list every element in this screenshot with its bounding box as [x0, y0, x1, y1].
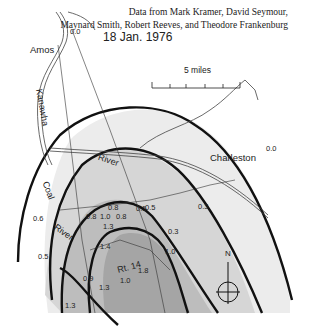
value-label: 0.8 [116, 212, 126, 221]
value-label: 0.0 [70, 27, 80, 36]
value-label: 0.8 [86, 212, 96, 221]
value-label: 0.5 [145, 203, 155, 212]
credit-line-2: Maynard Smith, Robert Reeves, and Theodo… [60, 19, 288, 32]
value-label: 0.3 [168, 227, 178, 236]
map-date: 18 Jan. 1976 [103, 30, 172, 44]
value-label: 1.8 [138, 266, 148, 275]
scale-label: 5 miles [184, 65, 211, 75]
scale-bar [152, 82, 240, 88]
value-label: 0.9 [83, 274, 93, 283]
value-label: 0.3 [198, 202, 208, 211]
value-label: 0.5 [38, 252, 48, 261]
value-label: 0.0 [266, 144, 276, 153]
credit-line-1: Data from Mark Kramer, David Seymour, [60, 6, 288, 19]
value-label: 1.3 [103, 222, 113, 231]
data-credit: Data from Mark Kramer, David Seymour, Ma… [60, 6, 288, 31]
value-label: 1.4 [100, 242, 110, 251]
north-label: N [225, 249, 231, 258]
value-label: 1.0 [100, 212, 110, 221]
place-amos: Amos [30, 44, 54, 55]
place-charleston: Charleston [210, 152, 256, 163]
value-label: 1.0 [165, 247, 175, 256]
value-label: 0.8 [108, 203, 118, 212]
value-label: 1.3 [65, 301, 75, 310]
value-label: 1.3 [99, 283, 109, 292]
value-label: 1.0 [120, 276, 130, 285]
value-label: 0.6 [33, 214, 43, 223]
